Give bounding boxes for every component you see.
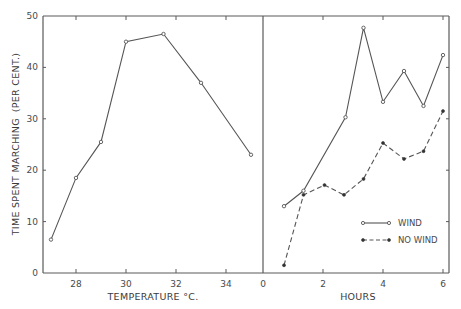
legend-item-no-wind: NO WIND [362, 235, 439, 245]
filled-dot-icon [283, 264, 286, 267]
legend-no-wind-label: NO WIND [398, 235, 438, 245]
right-x-axis-title: HOURS [340, 291, 376, 302]
x-tick-label: 32 [170, 279, 181, 289]
series-layer [49, 26, 444, 267]
x-tick-label: 6 [440, 279, 446, 289]
chart-canvas: 01020304050283032340246 TIME SPENT MARCH… [0, 0, 461, 309]
legend-wind-label: WIND [398, 218, 422, 228]
y-tick-label: 40 [27, 62, 39, 72]
filled-dot-icon [403, 157, 406, 160]
filled-dot-icon [362, 239, 365, 242]
open-circle-icon [199, 81, 202, 84]
x-tick-label: 4 [380, 279, 386, 289]
filled-dot-icon [382, 141, 385, 144]
open-circle-icon [402, 69, 405, 72]
open-circle-icon [302, 189, 305, 192]
x-tick-label: 2 [320, 279, 326, 289]
filled-dot-icon [422, 150, 425, 153]
y-tick-label: 10 [27, 217, 39, 227]
plot-frame [43, 16, 449, 273]
x-tick-label: 0 [260, 279, 266, 289]
open-circle-icon [49, 238, 52, 241]
tick-labels: 01020304050283032340246 [27, 11, 447, 289]
filled-dot-icon [362, 177, 365, 180]
filled-dot-icon [442, 110, 445, 113]
y-tick-label: 30 [27, 114, 39, 124]
axis-ticks [43, 16, 449, 273]
open-circle-icon [99, 140, 102, 143]
filled-dot-icon [323, 184, 326, 187]
open-circle-icon [381, 100, 384, 103]
y-axis-title: TIME SPENT MARCHING(PER CENT.) [10, 53, 21, 237]
open-circle-icon [249, 153, 252, 156]
y-tick-label: 50 [27, 11, 39, 21]
open-circle-icon [441, 53, 444, 56]
open-circle-icon [162, 32, 165, 35]
open-circle-icon [362, 26, 365, 29]
filled-dot-icon [302, 193, 305, 196]
y-tick-label: 20 [27, 165, 39, 175]
x-tick-label: 34 [220, 279, 232, 289]
x-tick-label: 30 [120, 279, 132, 289]
open-circle-icon [422, 104, 425, 107]
open-circle-icon [387, 221, 390, 224]
open-circle-icon [361, 221, 364, 224]
legend-item-wind: WIND [361, 218, 422, 228]
open-circle-icon [344, 116, 347, 119]
filled-dot-icon [343, 193, 346, 196]
x-tick-label: 28 [70, 279, 82, 289]
open-circle-icon [74, 176, 77, 179]
filled-dot-icon [388, 239, 391, 242]
open-circle-icon [124, 40, 127, 43]
temperature-series-line [51, 34, 251, 240]
chart-figure: 01020304050283032340246 TIME SPENT MARCH… [0, 0, 461, 309]
legend: WIND NO WIND [361, 218, 438, 245]
open-circle-icon [282, 204, 285, 207]
left-x-axis-title: TEMPERATURE °C. [107, 291, 199, 302]
y-tick-label: 0 [32, 268, 38, 278]
